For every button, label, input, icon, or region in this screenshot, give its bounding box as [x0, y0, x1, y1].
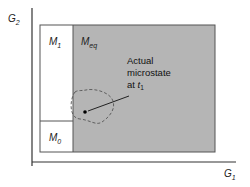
- annotation-line1: Actual: [127, 55, 153, 66]
- y-axis-label: G2: [8, 13, 20, 26]
- phase-space-diagram: G2 G1 M1 Meq M0 Actual microstate at t1: [0, 0, 250, 187]
- x-axis-label: G1: [224, 168, 236, 181]
- annotation-line2: microstate: [127, 67, 171, 78]
- microstate-point: [83, 110, 87, 114]
